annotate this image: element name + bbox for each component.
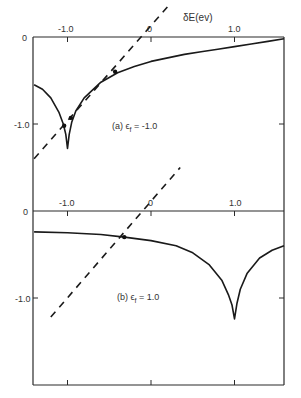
panel-b-annotation: (b) ϵf = 1.0	[117, 292, 159, 304]
panel-a-annotation: (a) ϵf = -1.0	[112, 121, 157, 133]
panel-a-ytick-label-neg1: -1.0	[14, 120, 30, 130]
panel-b: -1.0 0 1.0 0 -1.0 (b) ϵf = 1.0	[15, 168, 284, 386]
figure: δE(ev) -1.0 0 1.0 0 -1.0 (a) ϵf = -1.0 -…	[0, 0, 301, 398]
x-axis-title: δE(ev)	[183, 12, 212, 23]
panel-b-intersection-points	[122, 235, 126, 239]
intersection-point	[113, 70, 117, 74]
panel-b-xtick-label-1: 1.0	[229, 198, 242, 208]
panel-a-ytick-label-0: 0	[22, 33, 27, 43]
intersection-point	[122, 235, 126, 239]
panel-a-curve	[34, 39, 284, 149]
panel-b-curve	[34, 232, 284, 319]
panel-b-xtick-label-0: 0	[148, 198, 153, 208]
panel-b-ytick-label-neg1: -1.0	[15, 294, 31, 304]
panel-b-xtick-label-neg1: -1.0	[59, 198, 75, 208]
panel-b-ytick-label-0: 0	[23, 207, 28, 217]
panel-a-xtick-label-neg1: -1.0	[58, 24, 74, 34]
panel-a-ticks	[33, 37, 284, 124]
intersection-point	[69, 116, 73, 120]
intersection-point	[62, 124, 66, 128]
panel-a: δE(ev) -1.0 0 1.0 0 -1.0 (a) ϵf = -1.0	[14, 7, 284, 159]
panel-a-xtick-label-1: 1.0	[228, 24, 241, 34]
